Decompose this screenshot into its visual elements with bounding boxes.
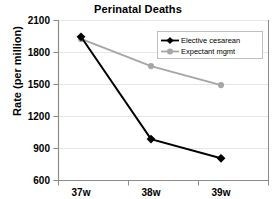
data-point-expectant-39w xyxy=(218,82,224,88)
y-tick-label-1500: 1500 xyxy=(28,79,51,90)
legend: Elective cesarean Expectant mgmt xyxy=(158,32,263,59)
y-tick-label-1200: 1200 xyxy=(28,111,51,122)
chart-figure: Perinatal Deaths Rate (per million) xyxy=(0,0,276,199)
x-tick-label-38w: 38w xyxy=(142,187,161,198)
y-tick-label-1800: 1800 xyxy=(28,47,51,58)
x-tick-label-37w: 37w xyxy=(72,187,91,198)
y-tick-label-600: 600 xyxy=(33,175,50,186)
y-axis-ticks xyxy=(54,21,59,181)
y-tick-label-2100: 2100 xyxy=(28,15,51,26)
legend-marker-circle-icon xyxy=(167,49,173,55)
x-axis-ticks xyxy=(59,181,269,186)
plot-area: 600 900 1200 1500 1800 2100 37w 38w 39w xyxy=(0,0,276,199)
y-tick-label-900: 900 xyxy=(33,143,50,154)
legend-label-elective-cesarean: Elective cesarean xyxy=(181,36,240,45)
legend-label-expectant-mgmt: Expectant mgmt xyxy=(181,47,236,56)
data-point-expectant-38w xyxy=(148,63,154,69)
x-tick-label-39w: 39w xyxy=(212,187,231,198)
